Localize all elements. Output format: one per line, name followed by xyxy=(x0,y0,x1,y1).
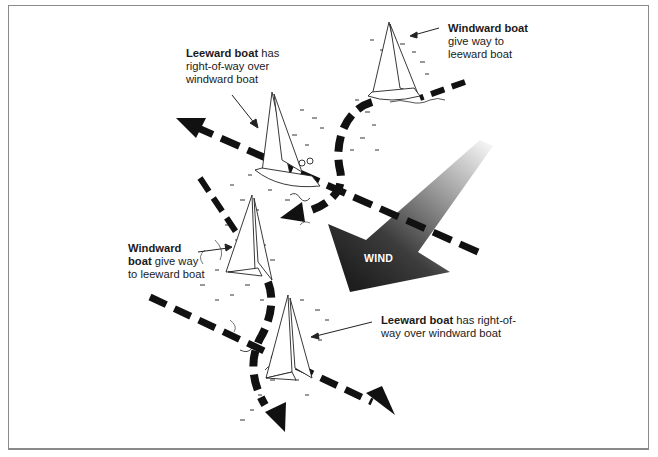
label-windward-top-right: Windward boat give way to leeward boat xyxy=(448,22,528,62)
label-text: give way to xyxy=(448,35,504,47)
diagram-canvas xyxy=(0,0,658,457)
label-text: way over windward boat xyxy=(381,327,501,339)
label-text: right-of-way over xyxy=(186,60,269,72)
label-text: has xyxy=(258,47,279,59)
label-windward-mid-left: Windward boat give way to leeward boat xyxy=(128,242,205,282)
label-text: leeward boat xyxy=(448,48,512,60)
label-bold: Windward boat xyxy=(448,22,528,34)
label-bold: Windward xyxy=(128,242,181,254)
label-bold: Leeward boat xyxy=(381,314,453,326)
arrowhead-upper-curve-icon xyxy=(280,202,305,222)
label-text: give way xyxy=(152,255,199,267)
wind-label: WIND xyxy=(364,252,393,264)
label-text: has right-of- xyxy=(453,314,516,326)
label-text: windward boat xyxy=(186,73,258,85)
label-leeward-top-left: Leeward boat has right-of-way over windw… xyxy=(186,47,279,87)
course-lower-straight xyxy=(150,297,372,402)
wind-arrow-icon xyxy=(328,140,493,292)
arrowhead-lower-curve-icon xyxy=(265,402,286,432)
label-bold: boat xyxy=(128,255,152,267)
boat-middle-left-icon xyxy=(226,195,272,280)
label-bold: Leeward boat xyxy=(186,47,258,59)
label-text: to leeward boat xyxy=(128,268,205,280)
boat-top-right-icon xyxy=(368,22,420,100)
label-leeward-bottom-right: Leeward boat has right-of- way over wind… xyxy=(381,314,516,340)
boat-upper-middle-icon xyxy=(255,92,320,187)
